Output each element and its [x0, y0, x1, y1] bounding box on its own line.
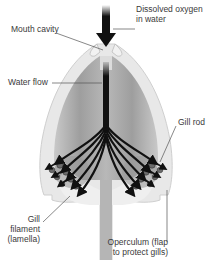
label-line: Gill	[4, 214, 40, 224]
fish-gill-diagram: Dissolved oxygen in water Mouth cavity W…	[0, 0, 212, 260]
label-line: Dissolved oxygen	[136, 4, 203, 14]
oxygen-inflow-arrow	[96, 5, 116, 47]
label-mouth-cavity: Mouth cavity	[11, 24, 59, 34]
label-line: in water	[136, 14, 203, 24]
water-flow-stem	[103, 62, 109, 132]
label-line: filament	[4, 224, 40, 234]
label-line: Operculum (flap	[104, 237, 168, 247]
label-line: (lamella)	[4, 234, 40, 244]
label-gill-filament: Gill filament (lamella)	[4, 214, 40, 244]
label-water-flow: Water flow	[8, 77, 48, 87]
label-operculum: Operculum (flap to protect gills)	[104, 237, 168, 257]
label-dissolved-oxygen: Dissolved oxygen in water	[136, 4, 203, 24]
label-line: to protect gills)	[104, 247, 168, 257]
label-gill-rod: Gill rod	[178, 117, 205, 127]
